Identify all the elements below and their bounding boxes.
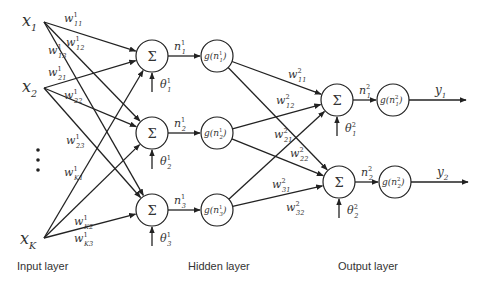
net-label-hidden-1: n11 bbox=[174, 39, 186, 56]
weight-label-xK-h2: w1K2 bbox=[74, 214, 93, 231]
sum-node-hidden-3-sigma-symbol: Σ bbox=[147, 203, 156, 218]
edge-g1-o1 bbox=[232, 62, 321, 95]
net-label-output-1: n21 bbox=[359, 83, 371, 100]
bias-label-hidden-2: θ12 bbox=[160, 154, 171, 171]
net-label-hidden-2: n12 bbox=[174, 116, 186, 133]
bias-label-output-2: θ22 bbox=[347, 203, 358, 220]
input-label-x1: x1 bbox=[22, 11, 37, 33]
neural-network-diagram: ΣΣΣg(n11)g(n12)g(n13)ΣΣg(n21)g(n22) w111… bbox=[0, 0, 485, 287]
weight-label-g1-o1: w211 bbox=[288, 67, 306, 84]
sum-node-hidden-1-sigma-symbol: Σ bbox=[147, 49, 156, 64]
weight-label-x2-h3: w123 bbox=[66, 133, 84, 150]
output-label-y1: y1 bbox=[434, 83, 446, 100]
sum-node-output-1-sigma-symbol: Σ bbox=[332, 93, 341, 108]
edge-g2-o2 bbox=[232, 139, 323, 176]
edges bbox=[44, 22, 468, 246]
layer-label-output: Output layer bbox=[338, 260, 398, 272]
ellipsis-dot bbox=[36, 148, 40, 152]
weight-label-g1-o2: w212 bbox=[276, 93, 294, 110]
output-label-y2: y2 bbox=[436, 165, 449, 182]
weight-label-g2-o1: w221 bbox=[274, 127, 292, 144]
sum-node-hidden-2-sigma-symbol: Σ bbox=[147, 126, 156, 141]
weight-label-x2-h2: w122 bbox=[64, 88, 82, 105]
weight-label-xK-h1: w1K1 bbox=[64, 165, 83, 182]
input-label-x2: x2 bbox=[22, 77, 37, 99]
edge-g2-o1 bbox=[232, 105, 320, 129]
weight-label-g3-o2: w232 bbox=[286, 200, 304, 217]
weight-label-g3-o1: w231 bbox=[272, 177, 290, 194]
ellipsis-dot bbox=[36, 168, 40, 172]
edge-xK-h1 bbox=[44, 70, 143, 238]
weight-label-x1-h3: w113 bbox=[48, 43, 66, 60]
weight-label-g2-o2: w222 bbox=[290, 146, 308, 163]
net-label-output-2: n22 bbox=[361, 165, 373, 182]
bias-label-hidden-3: θ13 bbox=[160, 231, 171, 248]
edge-x2-h3 bbox=[44, 88, 141, 197]
layer-label-input: Input layer bbox=[17, 260, 69, 272]
labels: w111w112w113w121w122w123w1K1w1K2w1K3n11θ… bbox=[17, 11, 449, 272]
sum-node-output-2-sigma-symbol: Σ bbox=[334, 175, 343, 190]
weight-label-x1-h1: w111 bbox=[64, 11, 82, 28]
net-label-hidden-3: n13 bbox=[174, 193, 186, 210]
bias-label-output-1: θ21 bbox=[345, 121, 356, 138]
weight-label-x1-h2: w112 bbox=[66, 35, 84, 52]
input-label-xK: xK bbox=[20, 229, 37, 251]
weight-label-x2-h1: w121 bbox=[48, 65, 66, 82]
edge-x2-h2 bbox=[44, 88, 136, 127]
weight-label-xK-h3: w1K3 bbox=[74, 231, 93, 248]
layer-label-hidden: Hidden layer bbox=[188, 260, 250, 272]
ellipsis-dot bbox=[36, 158, 40, 162]
bias-label-hidden-1: θ11 bbox=[160, 77, 171, 94]
